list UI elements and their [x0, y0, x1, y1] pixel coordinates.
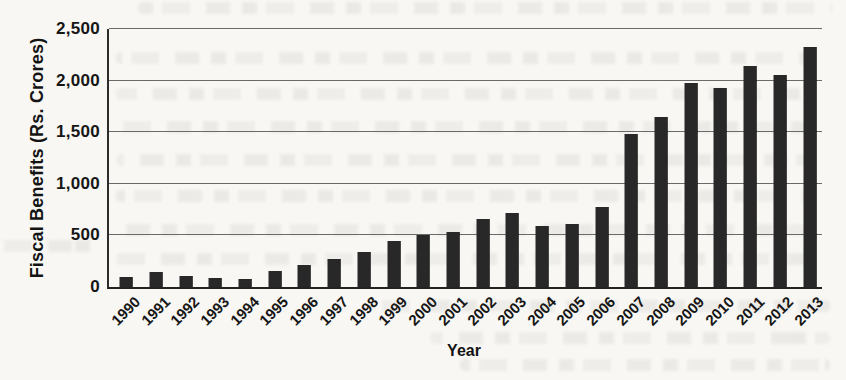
chart-bar	[714, 88, 727, 287]
y-tick-label: 2,500	[56, 19, 100, 39]
chart-bar	[179, 276, 192, 287]
x-tick-label: 1992	[167, 293, 203, 329]
chart-bar	[803, 47, 816, 287]
y-tick-label: 1,500	[56, 122, 100, 142]
chart-bar	[239, 279, 252, 287]
chart-bar	[595, 207, 608, 287]
x-tick-label: 1994	[226, 293, 262, 329]
gridline	[109, 80, 822, 81]
x-tick-label: 2003	[494, 293, 530, 329]
x-tick-label: 2002	[464, 293, 500, 329]
chart-bar	[447, 232, 460, 287]
x-tick-label: 1997	[316, 293, 352, 329]
x-tick-label: 2013	[791, 293, 827, 329]
chart-bar	[298, 265, 311, 287]
x-tick-label: 1990	[108, 293, 144, 329]
y-tick-label: 500	[71, 225, 100, 245]
x-tick-label: 1996	[286, 293, 322, 329]
x-tick-label: 2000	[405, 293, 441, 329]
y-axis-title: Fiscal Benefits (Rs. Crores)	[27, 38, 48, 279]
x-tick-label: 2006	[583, 293, 619, 329]
chart-bar	[387, 241, 400, 287]
gridline	[109, 28, 822, 29]
x-tick-label: 1999	[375, 293, 411, 329]
x-tick-label: 1998	[345, 293, 381, 329]
x-tick-label: 2007	[613, 293, 649, 329]
chart-bar	[536, 226, 549, 287]
x-tick-label: 2004	[524, 293, 560, 329]
x-tick-label: 2011	[732, 293, 767, 328]
x-tick-label: 2009	[672, 293, 708, 329]
x-tick-label: 2012	[761, 293, 797, 329]
chart-bar	[149, 272, 162, 287]
fiscal-benefits-bar-chart: Fiscal Benefits (Rs. Crores) 05001,0001,…	[0, 0, 846, 380]
x-tick-label: 2005	[553, 293, 589, 329]
chart-bar	[684, 83, 697, 287]
x-tick-label: 2010	[702, 293, 738, 329]
x-tick-label: 1993	[197, 293, 233, 329]
x-tick-label: 2001	[434, 293, 470, 329]
chart-bar	[328, 259, 341, 287]
chart-bar	[120, 277, 133, 287]
chart-bar	[209, 278, 222, 287]
x-tick-label: 1991	[137, 293, 173, 329]
chart-bar	[773, 75, 786, 287]
chart-bar	[357, 252, 370, 287]
x-tick-label: 2008	[642, 293, 678, 329]
y-tick-label: 2,000	[56, 71, 100, 91]
plot-area: 05001,0001,5002,0002,5001990199119921993…	[107, 29, 822, 289]
x-axis-title: Year	[447, 342, 481, 360]
chart-bar	[506, 213, 519, 287]
chart-bar	[268, 271, 281, 288]
chart-bar	[654, 117, 667, 287]
y-tick-label: 1,000	[56, 174, 100, 194]
chart-bar	[625, 134, 638, 287]
x-tick-label: 1995	[256, 293, 292, 329]
y-tick-label: 0	[90, 277, 100, 297]
chart-bar	[565, 224, 578, 287]
chart-bar	[417, 235, 430, 287]
chart-bar	[744, 66, 757, 287]
chart-bar	[476, 219, 489, 287]
